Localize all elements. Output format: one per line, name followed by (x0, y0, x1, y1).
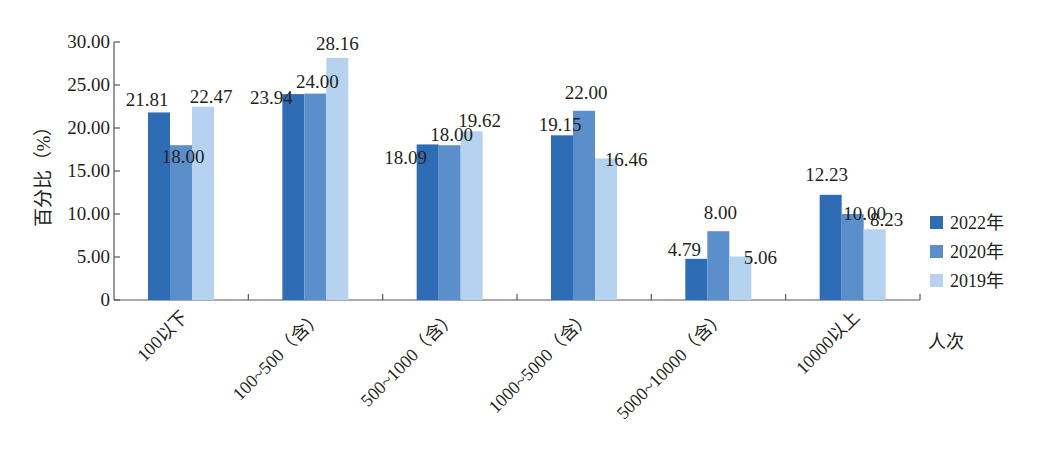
x-tick-label: 100以下 (133, 307, 192, 366)
bar-2022年-0 (148, 112, 170, 300)
bar-2019年-1 (326, 58, 348, 300)
x-tick-label: 10000以上 (792, 307, 863, 378)
bar-2019年-5 (864, 229, 886, 300)
x-tick-label: 500~1000（含） (357, 307, 461, 411)
data-label: 22.47 (190, 86, 233, 107)
y-tick-label: 25.00 (67, 74, 110, 95)
data-label: 8.23 (870, 209, 903, 230)
legend-swatch (930, 245, 943, 258)
bar-2019年-3 (595, 158, 617, 300)
data-label: 28.16 (316, 33, 359, 54)
bar-2020年-2 (439, 145, 461, 300)
bar-2022年-4 (685, 259, 707, 300)
legend-swatch (930, 274, 943, 287)
legend-label: 2019年 (950, 271, 1004, 291)
bar-2020年-4 (707, 231, 729, 300)
data-label: 18.00 (162, 146, 205, 167)
data-label: 19.62 (458, 110, 501, 131)
data-label: 18.09 (384, 147, 427, 168)
y-tick-label: 5.00 (77, 246, 110, 267)
data-label: 24.00 (296, 71, 339, 92)
bar-2019年-2 (461, 131, 483, 300)
bar-2019年-0 (192, 107, 214, 300)
data-label: 19.15 (539, 114, 582, 135)
bar-2022年-1 (282, 94, 304, 300)
legend: 2022年2020年2019年 (930, 213, 1004, 291)
data-label: 5.06 (744, 247, 777, 268)
legend-swatch (930, 216, 943, 229)
data-label: 8.00 (704, 202, 737, 223)
x-axis-title: 人次 (928, 332, 964, 352)
legend-label: 2022年 (950, 213, 1004, 233)
x-tick-label: 100~500（含） (229, 307, 326, 404)
data-label: 21.81 (126, 89, 169, 110)
grouped-bar-chart: 05.0010.0015.0020.0025.0030.00 21.8123.9… (0, 0, 1037, 465)
y-tick-label: 0 (101, 289, 111, 310)
data-labels: 21.8123.9418.0919.154.7912.2318.0024.001… (126, 33, 904, 269)
data-label: 12.23 (805, 164, 848, 185)
bar-2022年-5 (820, 195, 842, 300)
data-label: 16.46 (605, 149, 648, 170)
y-tick-label: 20.00 (67, 117, 110, 138)
x-tick-labels: 100以下100~500（含）500~1000（含）1000~5000（含）50… (133, 307, 863, 423)
x-tick-label: 1000~5000（含） (485, 307, 595, 417)
y-axis-title: 百分比（%） (33, 117, 54, 228)
y-tick-label: 30.00 (67, 31, 110, 52)
data-label: 23.94 (250, 87, 293, 108)
bar-2020年-5 (842, 214, 864, 300)
bar-2020年-1 (304, 94, 326, 300)
y-tick-label: 10.00 (67, 203, 110, 224)
legend-label: 2020年 (950, 242, 1004, 262)
x-tick-label: 5000~10000（含） (613, 307, 729, 423)
bar-2020年-0 (170, 145, 192, 300)
bar-2022年-3 (551, 135, 573, 300)
bar-2020年-3 (573, 111, 595, 300)
data-label: 22.00 (565, 82, 608, 103)
data-label: 4.79 (668, 239, 701, 260)
y-tick-label: 15.00 (67, 160, 110, 181)
